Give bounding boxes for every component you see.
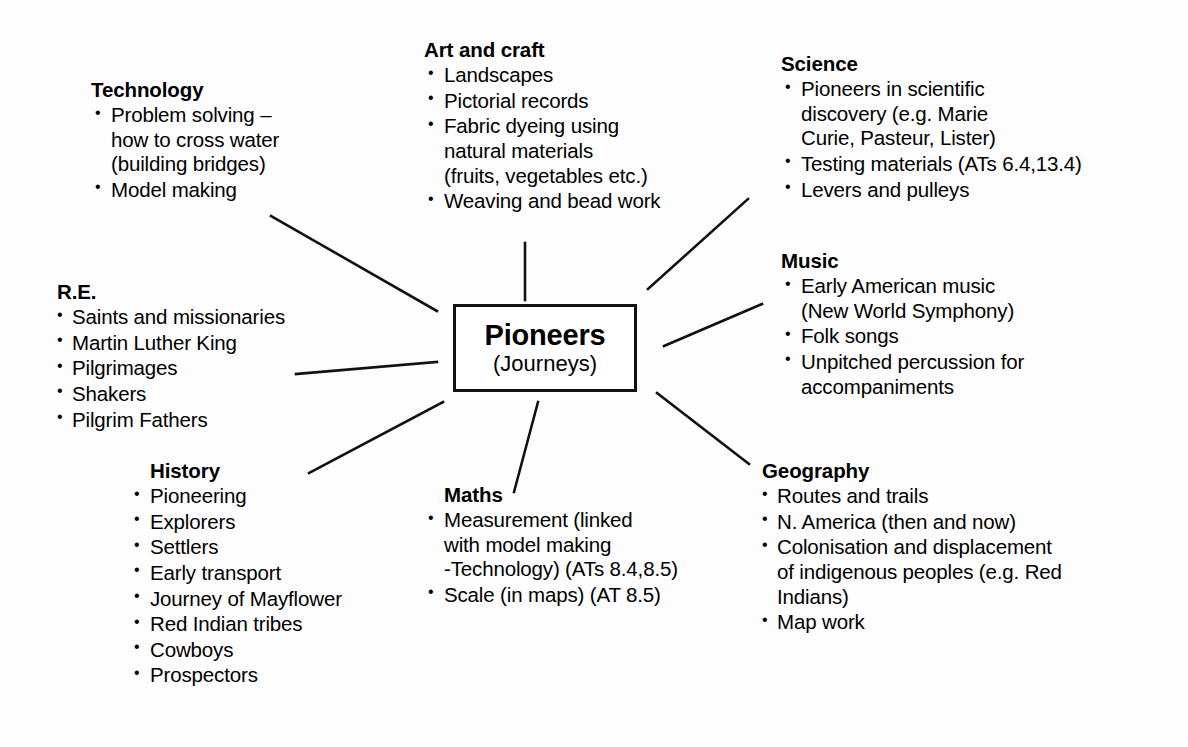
connector-maths: [514, 402, 538, 492]
list-item-text: Pilgrimages: [72, 356, 377, 381]
list-item-text-continuation: (New World Symphony): [801, 299, 1121, 324]
list-item: Explorers: [130, 510, 430, 535]
subject-heading-geography: Geography: [762, 459, 1162, 483]
list-item-text: Measurement (linked: [444, 508, 724, 533]
subject-block-re: R.E. Saints and missionariesMartin Luthe…: [57, 280, 377, 433]
center-node-subtitle: (Journeys): [493, 351, 597, 376]
subject-list-technology: Problem solving –how to cross water(buil…: [91, 103, 391, 202]
list-item-text: Pictorial records: [444, 89, 754, 114]
list-item-text: Explorers: [150, 510, 430, 535]
list-item: Model making: [91, 178, 391, 203]
subject-heading-history: History: [130, 459, 430, 483]
list-item: Cowboys: [130, 638, 430, 663]
list-item-text: Model making: [111, 178, 391, 203]
list-item: Red Indian tribes: [130, 612, 430, 637]
list-item-text: Map work: [777, 610, 1162, 635]
list-item: Prospectors: [130, 663, 430, 688]
subject-list-geography: Routes and trailsN. America (then and no…: [762, 484, 1162, 635]
list-item: Routes and trails: [762, 484, 1162, 509]
list-item: Problem solving –how to cross water(buil…: [91, 103, 391, 177]
list-item: Pilgrim Fathers: [57, 408, 377, 433]
list-item-text: Early American music: [801, 274, 1121, 299]
list-item-text: Saints and missionaries: [72, 305, 377, 330]
list-item: Pilgrimages: [57, 356, 377, 381]
list-item-text-continuation: -Technology) (ATs 8.4,8.5): [444, 557, 724, 582]
subject-list-science: Pioneers in scientificdiscovery (e.g. Ma…: [781, 77, 1111, 202]
list-item-text-continuation: of indigenous peoples (e.g. Red: [777, 560, 1162, 585]
subject-block-science: Science Pioneers in scientificdiscovery …: [781, 52, 1111, 203]
subject-heading-music: Music: [781, 249, 1121, 273]
mind-map-canvas: Pioneers (Journeys) Technology Problem s…: [0, 0, 1188, 747]
list-item: Pioneering: [130, 484, 430, 509]
subject-block-history: History PioneeringExplorersSettlersEarly…: [130, 459, 430, 689]
list-item: Early transport: [130, 561, 430, 586]
subject-block-music: Music Early American music(New World Sym…: [781, 249, 1121, 400]
subject-list-maths: Measurement (linkedwith model making-Tec…: [424, 508, 724, 607]
list-item-text-continuation: (building bridges): [111, 152, 391, 177]
subject-list-art-and-craft: LandscapesPictorial recordsFabric dyeing…: [424, 63, 754, 214]
list-item-text-continuation: Indians): [777, 585, 1162, 610]
list-item: Shakers: [57, 382, 377, 407]
list-item-text: Landscapes: [444, 63, 754, 88]
connector-geography: [657, 393, 749, 464]
subject-heading-science: Science: [781, 52, 1111, 76]
subject-block-technology: Technology Problem solving –how to cross…: [91, 78, 391, 204]
subject-block-geography: Geography Routes and trailsN. America (t…: [762, 459, 1162, 636]
list-item: Testing materials (ATs 6.4,13.4): [781, 152, 1111, 177]
subject-block-maths: Maths Measurement (linkedwith model maki…: [424, 483, 724, 609]
list-item-text: Red Indian tribes: [150, 612, 430, 637]
list-item: Early American music(New World Symphony): [781, 274, 1121, 323]
list-item-text-continuation: with model making: [444, 533, 724, 558]
list-item-text-continuation: natural materials: [444, 139, 754, 164]
subject-list-music: Early American music(New World Symphony)…: [781, 274, 1121, 399]
list-item: Martin Luther King: [57, 331, 377, 356]
list-item: Fabric dyeing usingnatural materials(fru…: [424, 114, 754, 188]
list-item: Folk songs: [781, 324, 1121, 349]
list-item: Map work: [762, 610, 1162, 635]
list-item-text-continuation: accompaniments: [801, 375, 1121, 400]
list-item-text-continuation: how to cross water: [111, 128, 391, 153]
center-node: Pioneers (Journeys): [453, 304, 637, 392]
list-item: Pictorial records: [424, 89, 754, 114]
list-item: Colonisation and displacementof indigeno…: [762, 535, 1162, 609]
list-item-text: Martin Luther King: [72, 331, 377, 356]
list-item-text: Cowboys: [150, 638, 430, 663]
subject-heading-technology: Technology: [91, 78, 391, 102]
list-item-text: Routes and trails: [777, 484, 1162, 509]
list-item-text: Pilgrim Fathers: [72, 408, 377, 433]
list-item: Pioneers in scientificdiscovery (e.g. Ma…: [781, 77, 1111, 151]
list-item-text: Levers and pulleys: [801, 178, 1111, 203]
list-item-text: Unpitched percussion for: [801, 350, 1121, 375]
list-item-text: Pioneering: [150, 484, 430, 509]
connector-music: [664, 304, 762, 346]
center-node-title: Pioneers: [485, 320, 606, 350]
list-item-text: Testing materials (ATs 6.4,13.4): [801, 152, 1111, 177]
list-item-text-continuation: (fruits, vegetables etc.): [444, 164, 754, 189]
list-item-text: Pioneers in scientific: [801, 77, 1111, 102]
list-item: Weaving and bead work: [424, 189, 754, 214]
list-item-text: Colonisation and displacement: [777, 535, 1162, 560]
list-item: Measurement (linkedwith model making-Tec…: [424, 508, 724, 582]
list-item-text-continuation: Curie, Pasteur, Lister): [801, 126, 1111, 151]
list-item-text: Journey of Mayflower: [150, 587, 430, 612]
list-item: Saints and missionaries: [57, 305, 377, 330]
subject-heading-art-and-craft: Art and craft: [424, 38, 754, 62]
subject-list-history: PioneeringExplorersSettlersEarly transpo…: [130, 484, 430, 688]
list-item: Settlers: [130, 535, 430, 560]
list-item: Journey of Mayflower: [130, 587, 430, 612]
list-item-text: Early transport: [150, 561, 430, 586]
list-item: Scale (in maps) (AT 8.5): [424, 583, 724, 608]
list-item: Unpitched percussion foraccompaniments: [781, 350, 1121, 399]
list-item: N. America (then and now): [762, 510, 1162, 535]
subject-heading-maths: Maths: [424, 483, 724, 507]
list-item-text: Prospectors: [150, 663, 430, 688]
list-item-text: Settlers: [150, 535, 430, 560]
list-item-text-continuation: discovery (e.g. Marie: [801, 102, 1111, 127]
list-item-text: Fabric dyeing using: [444, 114, 754, 139]
list-item-text: Weaving and bead work: [444, 189, 754, 214]
list-item-text: Problem solving –: [111, 103, 391, 128]
subject-list-re: Saints and missionariesMartin Luther Kin…: [57, 305, 377, 432]
list-item: Landscapes: [424, 63, 754, 88]
list-item: Levers and pulleys: [781, 178, 1111, 203]
list-item-text: Folk songs: [801, 324, 1121, 349]
